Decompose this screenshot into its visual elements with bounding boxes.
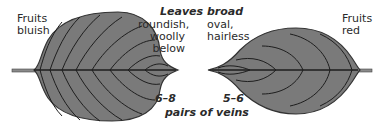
- left-leaf-shape-label: roundish, woolly below: [138, 19, 185, 55]
- right-veins-count: 5–6: [223, 93, 244, 105]
- left-veins-count: 6–8: [155, 93, 176, 105]
- pairs-of-veins-footer: pairs of veins: [165, 107, 249, 119]
- right-shape-line2: hairless: [207, 31, 250, 43]
- right-fruits-label: Fruits red: [342, 13, 372, 37]
- right-leaf-shape-label: oval, hairless: [207, 19, 250, 43]
- left-fruits-line2: bluish: [17, 25, 50, 37]
- left-shape-line3: below: [138, 43, 185, 55]
- leaves-broad-header: Leaves broad: [160, 6, 243, 18]
- left-fruits-label: Fruits bluish: [17, 13, 50, 37]
- right-fruits-line2: red: [342, 25, 372, 37]
